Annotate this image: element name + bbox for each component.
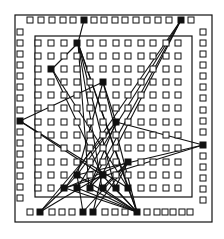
core-cell-empty <box>163 172 169 178</box>
core-cell-empty <box>125 66 131 72</box>
core-cell-empty <box>150 132 156 138</box>
core-cell-empty <box>138 119 144 125</box>
core-cell-empty <box>113 40 119 46</box>
io-pad <box>17 184 23 190</box>
core-cell-empty <box>100 105 106 111</box>
core-cell-empty <box>87 92 93 98</box>
core-cell-empty <box>138 105 144 111</box>
io-pad-used <box>80 209 86 215</box>
core-cell-empty <box>138 66 144 72</box>
io-pad <box>59 209 65 215</box>
io-pad <box>17 51 23 57</box>
io-pad-used <box>134 209 140 215</box>
wire <box>78 43 128 188</box>
core-cell-empty <box>150 119 156 125</box>
io-pad <box>200 164 206 170</box>
io-pad <box>17 62 23 68</box>
io-pad <box>200 29 206 35</box>
core-cell-empty <box>100 53 106 59</box>
core-cell-empty <box>48 132 54 138</box>
core-cell-empty <box>163 119 169 125</box>
core-cell-empty <box>35 53 41 59</box>
core-cell-empty <box>150 159 156 165</box>
core-cell-empty <box>61 92 67 98</box>
core-cell-empty <box>138 40 144 46</box>
wire-connections <box>20 20 203 212</box>
core-cell-empty <box>125 92 131 98</box>
core-cell-empty <box>125 40 131 46</box>
core-cell-empty <box>138 172 144 178</box>
core-cell-placed <box>48 66 54 72</box>
core-cell-empty <box>35 92 41 98</box>
io-pad <box>200 197 206 203</box>
core-cell-empty <box>87 132 93 138</box>
core-cell-empty <box>35 172 41 178</box>
io-pad <box>17 29 23 35</box>
io-pad <box>17 173 23 179</box>
core-cell-empty <box>175 66 181 72</box>
core-cell-empty <box>100 119 106 125</box>
io-pad-used <box>178 17 184 23</box>
core-cell-empty <box>48 40 54 46</box>
core-cell-empty <box>74 132 80 138</box>
core-cell-empty <box>163 132 169 138</box>
io-pad <box>17 151 23 157</box>
core-cell-empty <box>113 66 119 72</box>
core-cell-empty <box>100 92 106 98</box>
io-pad <box>179 209 185 215</box>
core-cell-empty <box>48 53 54 59</box>
core-cell-empty <box>87 40 93 46</box>
io-pad <box>188 17 194 23</box>
io-pad-used <box>81 17 87 23</box>
io-pad <box>200 175 206 181</box>
core-cell-empty <box>87 79 93 85</box>
io-pad <box>200 40 206 46</box>
core-cell-empty <box>163 185 169 191</box>
core-cell-placed <box>100 172 106 178</box>
io-pad <box>170 209 176 215</box>
core-cell-placed <box>87 185 93 191</box>
core-cell-empty <box>175 132 181 138</box>
io-pad <box>17 84 23 90</box>
core-cell-empty <box>113 145 119 151</box>
core-cell-empty <box>87 145 93 151</box>
io-pad-used <box>200 142 206 148</box>
core-cell-empty <box>138 92 144 98</box>
core-cell-empty <box>74 92 80 98</box>
core-cell-empty <box>61 132 67 138</box>
io-pad <box>70 17 76 23</box>
core-cell-empty <box>138 79 144 85</box>
core-cell-empty <box>48 119 54 125</box>
core-cell-empty <box>48 79 54 85</box>
core-cell-empty <box>61 40 67 46</box>
io-pad <box>144 17 150 23</box>
core-cell-empty <box>113 132 119 138</box>
core-cell-empty <box>150 53 156 59</box>
core-cell-empty <box>163 159 169 165</box>
core-cell-placed <box>100 79 106 85</box>
core-cell-empty <box>113 79 119 85</box>
io-pad-used <box>37 209 43 215</box>
core-cell-empty <box>138 53 144 59</box>
core-cell-empty <box>61 66 67 72</box>
core-cell-empty <box>125 79 131 85</box>
core-cell-empty <box>125 119 131 125</box>
wire <box>40 188 65 212</box>
io-pad <box>122 17 128 23</box>
core-cell-empty <box>100 145 106 151</box>
core-cell-placed <box>61 185 67 191</box>
core-cell-empty <box>125 172 131 178</box>
io-pad <box>17 95 23 101</box>
core-cell-empty <box>175 159 181 165</box>
core-cell-empty <box>163 145 169 151</box>
io-pad <box>27 209 33 215</box>
core-cell-empty <box>35 159 41 165</box>
core-cell-empty <box>48 159 54 165</box>
core-cell-empty <box>35 119 41 125</box>
core-cell-empty <box>163 92 169 98</box>
core-cell-empty <box>87 66 93 72</box>
core-cell-empty <box>125 145 131 151</box>
core-cell-empty <box>175 172 181 178</box>
io-pad <box>49 209 55 215</box>
core-cell-empty <box>125 132 131 138</box>
